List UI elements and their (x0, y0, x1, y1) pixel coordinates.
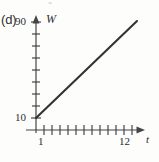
x-axis-name: t (146, 134, 149, 145)
figure-panel-d: s (d) 90 10 W 1 12 t (0, 0, 159, 162)
panel-label: (d) (1, 13, 16, 26)
y-axis-tick-label-10: 10 (15, 112, 26, 123)
cropped-text-artifact: s (48, 0, 52, 5)
x-axis-tick-label-12: 12 (119, 136, 130, 147)
y-axis-name: W (46, 13, 56, 25)
x-axis-tick-label-1: 1 (38, 136, 44, 147)
data-line-series (36, 21, 137, 118)
y-axis-tick-label-90: 90 (15, 16, 26, 27)
